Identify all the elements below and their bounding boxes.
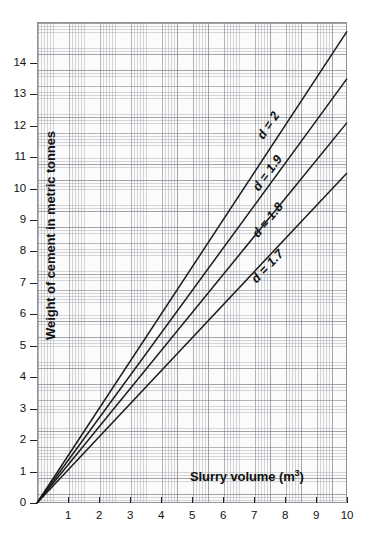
series-label: d = 1.9 (250, 153, 285, 194)
x-axis-title-tail: ) (300, 469, 304, 484)
y-axis-tick (30, 94, 37, 95)
x-axis-tick (254, 497, 255, 503)
x-axis-tick (68, 497, 69, 503)
y-axis-tick-label: 0 (0, 496, 26, 508)
x-axis-title-base: Slurry volume (m (190, 469, 295, 484)
y-axis-tick (30, 189, 37, 190)
y-axis-tick-label: 6 (0, 307, 26, 319)
y-axis-tick (30, 377, 37, 378)
y-axis-tick-label: 7 (0, 276, 26, 288)
y-axis-tick (30, 440, 37, 441)
series-label: d = 1.8 (249, 200, 286, 240)
x-axis-tick (316, 497, 317, 503)
y-axis-tick-label: 2 (0, 433, 26, 445)
y-axis-tick (30, 126, 37, 127)
y-axis-tick (30, 503, 37, 504)
x-axis-tick (99, 497, 100, 503)
x-axis-tick (347, 497, 348, 503)
y-axis-tick-label: 3 (0, 402, 26, 414)
y-axis-tick (30, 251, 37, 252)
x-axis-title: Slurry volume (m3) (190, 468, 304, 484)
x-axis-tick-label: 10 (327, 509, 367, 521)
series-label: d = 1.7 (249, 247, 287, 286)
y-axis-tick (30, 283, 37, 284)
y-axis-tick-label: 5 (0, 339, 26, 351)
x-axis-tick (285, 497, 286, 503)
chart-figure: 0123456789101112131412345678910d = 2d = … (0, 0, 373, 551)
y-axis-tick-label: 10 (0, 182, 26, 194)
y-axis-tick-label: 11 (0, 150, 26, 162)
y-axis-title: Weight of cement in metric tonnes (43, 126, 58, 346)
x-axis-tick (161, 497, 162, 503)
y-axis-tick (30, 472, 37, 473)
y-axis-tick (30, 346, 37, 347)
y-axis-tick-label: 8 (0, 244, 26, 256)
y-axis-tick-label: 1 (0, 465, 26, 477)
y-axis-tick-label: 14 (0, 56, 26, 68)
x-axis-tick (130, 497, 131, 503)
series-label: d = 2 (254, 109, 282, 142)
x-axis-tick (192, 497, 193, 503)
y-axis-tick-label: 13 (0, 87, 26, 99)
y-axis-tick-label: 4 (0, 370, 26, 382)
y-axis-tick (30, 314, 37, 315)
y-axis-tick (30, 157, 37, 158)
y-axis-tick (30, 220, 37, 221)
y-axis-tick-label: 12 (0, 119, 26, 131)
x-axis-tick (223, 497, 224, 503)
y-axis-tick (30, 409, 37, 410)
y-axis-tick (30, 63, 37, 64)
y-axis-tick-label: 9 (0, 213, 26, 225)
